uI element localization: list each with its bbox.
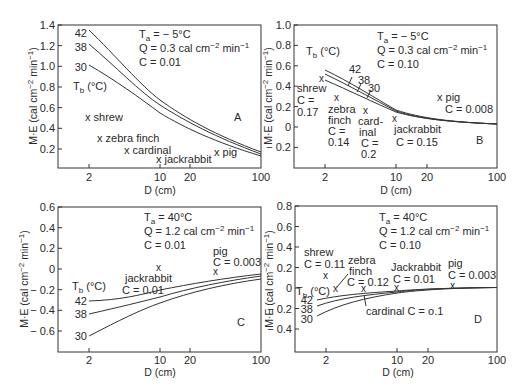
panel-c-xticks: 2 10 20 100	[86, 348, 270, 366]
point-pig: x pig	[214, 146, 237, 158]
ytick-label: − 0.2	[30, 284, 55, 296]
curve-tb-38	[89, 276, 261, 314]
label-pig: pig	[448, 257, 463, 269]
ta-annotation: Ta = − 5°C	[139, 28, 191, 43]
leader-42	[348, 77, 352, 86]
label-shrew-c: C =	[297, 94, 314, 106]
xtick-label: 20	[184, 171, 196, 183]
panel-letter: B	[476, 134, 483, 146]
label-shrew-cval: 0.17	[297, 106, 318, 118]
curve-tb-42	[89, 274, 261, 301]
ytick-label: 0.4	[276, 80, 291, 92]
label-zebra-cval: 0.14	[328, 136, 349, 148]
label-jackrabbit: jackrabbit	[393, 123, 441, 135]
ytick-label: 1.2	[40, 40, 55, 52]
figure: 1.4 1.2 1.0 0.8 0.6 0.4 0.2 2 10 20 100 …	[0, 0, 522, 388]
curve-label-38: 38	[75, 41, 87, 53]
y-axis-label: M·E (cal cm−2 min−1)	[26, 47, 39, 145]
label-cardinal-cval: 0.2	[361, 148, 376, 160]
xtick-label: 2	[86, 354, 92, 366]
panel-c-yticks: 0.6 0.4 0.2 0 − 0.2 − 0.4 − 0.6	[30, 201, 62, 337]
xtick-label: 10	[391, 354, 403, 366]
label-pig-c: C = 0.003	[448, 269, 496, 281]
curve-label-30: 30	[75, 330, 87, 342]
ytick-label: 1.4	[40, 19, 55, 31]
label-pig-c: C = 0.008	[445, 103, 493, 115]
curve-label-38: 38	[75, 308, 87, 320]
ytick-label: 0.6	[40, 201, 55, 213]
ta-annotation: Ta = 40°C	[144, 211, 192, 226]
panel-d: 0.8 0.6 0.4 0.2 0 − 0.2 − 0.4 2 10 20 10…	[262, 200, 506, 378]
curve-label-42: 42	[75, 295, 87, 307]
label-jackrabbit: jackrabbit	[124, 272, 172, 284]
xtick-label: 2	[86, 171, 92, 183]
q-annotation: Q = 0.3 cal cm−2 min−1	[377, 43, 488, 56]
point-zebra-finch: x zebra finch	[97, 132, 159, 144]
marker-zebra-finch: x	[334, 92, 339, 103]
tb-legend-title: Tb (°C)	[73, 80, 107, 95]
x-axis-label: D (cm)	[382, 366, 414, 378]
panel-d-xticks: 2 10 20 100	[323, 348, 506, 366]
xtick-label: 10	[154, 354, 166, 366]
ytick-label: 0.2	[40, 242, 55, 254]
panel-letter: D	[474, 313, 482, 325]
ta-annotation: Ta = 40°C	[379, 211, 427, 226]
xtick-label: 20	[184, 354, 196, 366]
y-axis-label: M·E (cal cm−2 min−1)	[262, 230, 275, 328]
label-jackrabbit-c: C = 0.15	[396, 136, 438, 148]
ytick-label: − 0.4	[30, 304, 55, 316]
ytick-label: 0.2	[276, 101, 291, 113]
label-shrew: shrew	[297, 82, 326, 94]
ytick-label: 0	[286, 282, 292, 294]
point-jackrabbit: x jackrabbit	[156, 153, 212, 165]
marker-cardinal: x	[361, 283, 366, 294]
label-pig-c: C = 0.003	[213, 256, 261, 268]
panel-letter: A	[234, 111, 242, 123]
marker-zebra-finch: x	[333, 283, 338, 294]
xtick-label: 20	[422, 354, 434, 366]
ytick-label: 0.4	[277, 241, 292, 253]
q-annotation: Q = 1.2 cal cm−2 min−1	[144, 224, 255, 237]
ytick-label: 0.8	[277, 200, 292, 212]
xtick-label: 100	[488, 354, 506, 366]
x-axis-label: D (cm)	[144, 184, 176, 196]
label-jackrabbit-c: C = 0.01	[122, 284, 164, 296]
marker-shrew: x	[323, 270, 328, 281]
q-annotation: Q = 1.2 cal cm−2 min−1	[379, 224, 490, 237]
xtick-label: 2	[323, 354, 329, 366]
c-annotation: C = 0.01	[139, 56, 181, 68]
ytick-label: 0.2	[40, 143, 55, 155]
ytick-label: 0.6	[277, 221, 292, 233]
c-annotation: C = 0.01	[144, 239, 186, 251]
xtick-label: 100	[488, 171, 506, 183]
xtick-label: 2	[322, 171, 328, 183]
panel-b-xticks: 2 10 20 100	[322, 164, 506, 183]
curve-tb-42	[317, 288, 497, 301]
curve-label-30: 30	[301, 313, 313, 325]
ytick-label: 0.4	[40, 222, 55, 234]
marker-jackrabbit: x	[394, 282, 399, 293]
c-annotation: C = 0.10	[379, 239, 421, 251]
label-cardinal: cardinal C = o.1	[366, 305, 443, 317]
q-annotation: Q = 0.3 cal cm−2 min−1	[139, 41, 250, 54]
curve-label-30: 30	[368, 82, 380, 94]
y-axis-label: M·E (cal cm−2 min−1)	[17, 230, 30, 328]
panel-c: 0.6 0.4 0.2 0 − 0.2 − 0.4 − 0.6 2 10 20 …	[17, 201, 270, 378]
xtick-label: 20	[421, 171, 433, 183]
panel-letter: C	[237, 316, 245, 328]
xtick-label: 100	[252, 354, 270, 366]
ytick-label: 0.6	[40, 102, 55, 114]
tb-legend-title: Tb (°C)	[72, 280, 106, 295]
xtick-label: 10	[390, 171, 402, 183]
ta-annotation: Ta = − 5°C	[377, 30, 429, 45]
ytick-label: 0.6	[276, 60, 291, 72]
ytick-label: 0.8	[276, 39, 291, 51]
ytick-label: 1.0	[40, 60, 55, 72]
x-axis-label: D (cm)	[380, 184, 412, 196]
xtick-label: 100	[252, 171, 270, 183]
ytick-label: 1.0	[276, 19, 291, 31]
ytick-label: 0.8	[40, 81, 55, 93]
ytick-label: 0	[49, 263, 55, 275]
panel-a-xticks: 2 10 20 100	[86, 164, 270, 183]
panel-b: 1.0 0.8 0.6 0.4 0.2 0 − 0.2 2 10 20 100 …	[261, 19, 506, 196]
